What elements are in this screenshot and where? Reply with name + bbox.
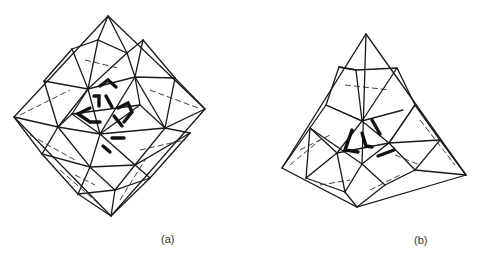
- figure-canvas: [0, 0, 481, 261]
- panel-label-b: (b): [414, 234, 427, 246]
- tetrahedron-lattice-b: [282, 34, 466, 207]
- panel-label-a: (a): [161, 233, 174, 245]
- octahedron-lattice-a: [14, 16, 205, 216]
